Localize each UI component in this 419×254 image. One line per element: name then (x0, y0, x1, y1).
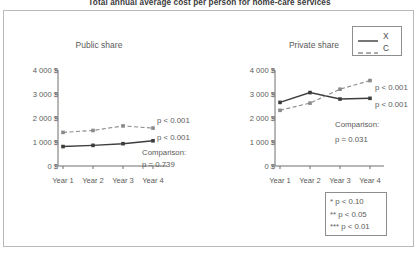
annotation-comparison-p-value: p = 0.739 (142, 160, 175, 169)
annotation-comparison-p-value: p = 0.031 (335, 135, 368, 144)
annotation-p-value-x: p < 0.001 (375, 100, 408, 109)
chart-legend: X C (352, 26, 402, 56)
figure-title: Total annual average cost per person for… (0, 0, 419, 7)
annotation-p-value-c: p < 0.001 (157, 116, 190, 125)
xtick-label: Year 4 (354, 176, 386, 185)
xtick-label: Year 3 (107, 176, 139, 185)
xtick-label: Year 4 (137, 176, 169, 185)
legend-label-x: X (383, 31, 389, 41)
chart-plot-area-public-share (14, 40, 204, 190)
chart-panel-private-share: Private share 4 000 $ 3 000 $ 2 000 $ 1 … (231, 40, 419, 190)
annotation-comparison-label: Comparison: (142, 148, 186, 157)
legend-entry-x: X (357, 32, 401, 44)
chart-panel-public-share: Public share 4 000 $ 3 000 $ 2 000 $ 1 0… (14, 40, 204, 190)
footnote-line: * p < 0.10 (330, 196, 386, 209)
footnote-line: *** p < 0.01 (330, 221, 386, 234)
chart-plot-area-private-share (231, 40, 419, 190)
xtick-label: Year 1 (47, 176, 79, 185)
annotation-comparison-label: Comparison: (335, 120, 379, 129)
legend-swatch-dashed-icon (357, 48, 379, 58)
footnote-line: ** p < 0.05 (330, 209, 386, 222)
legend-label-c: C (383, 43, 389, 53)
xtick-label: Year 3 (324, 176, 356, 185)
significance-footnote-box: * p < 0.10 ** p < 0.05 *** p < 0.01 (325, 192, 387, 236)
legend-entry-c: C (357, 44, 401, 56)
annotation-p-value-x: p < 0.001 (157, 133, 190, 142)
xtick-label: Year 2 (77, 176, 109, 185)
annotation-p-value-c: p < 0.001 (375, 83, 408, 92)
xtick-label: Year 2 (294, 176, 326, 185)
xtick-label: Year 1 (264, 176, 296, 185)
